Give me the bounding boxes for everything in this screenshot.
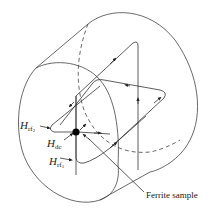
label-ferrite-sample: Ferrite sample [146,191,198,200]
field-loop-lower-arrow [110,143,116,148]
sample-arrow-ne [80,125,85,130]
ferrite-pointer-arrow [84,135,90,140]
field-loop-upper-arrow [110,59,115,64]
cavity-diagram [0,0,216,216]
label-h-rf1: Hrf1 [49,156,64,169]
cylinder-bottom-edge [100,172,150,200]
label-h-rf2: Hrf2 [20,120,35,133]
h-rf2-pointer [40,126,49,128]
ferrite-sample-dot [72,128,79,135]
label-h-dc: Hdc [47,138,62,151]
h-dc-pointer [64,134,72,140]
field-loop-left-arrow [70,102,74,106]
cylinder-back-end [88,13,198,172]
field-loop-lower [76,96,146,163]
field-loop-right-top-arrow [126,85,130,86]
cylinder-top-edge [36,24,88,68]
cylinder-front-end [18,68,118,202]
